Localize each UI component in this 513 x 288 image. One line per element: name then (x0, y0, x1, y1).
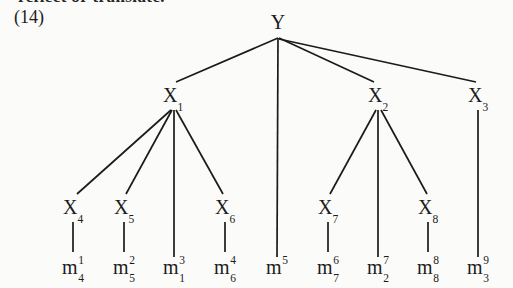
node-subscript: 3 (483, 101, 489, 113)
tree-edge-X2-X7 (330, 110, 376, 194)
level1-node-X1: X1 (163, 85, 183, 105)
node-base-label: m (467, 256, 483, 278)
node-subscript: 8 (433, 273, 439, 285)
tree-edge-X2-X8 (381, 110, 427, 194)
leaf-node-m1: m14 (62, 257, 84, 281)
tree-edge-Y-X2 (279, 38, 374, 82)
leaf-index-stack: 25 (129, 258, 135, 281)
node-subscript: 4 (78, 213, 84, 225)
level1-node-X2: X2 (368, 85, 388, 105)
node-subscript: 4 (78, 273, 84, 285)
node-base-label: Y (271, 11, 285, 33)
node-superscript: 9 (483, 254, 489, 266)
node-subscript: 1 (178, 101, 184, 113)
node-base-label: m (266, 256, 282, 278)
node-base-label: m (163, 256, 179, 278)
leaf-index-stack: 46 (230, 258, 236, 281)
tree-edge-Y-m5 (277, 38, 278, 257)
node-superscript: 4 (230, 254, 236, 266)
tree-edge-X1-X6 (176, 110, 223, 194)
node-subscript: 5 (129, 213, 135, 225)
node-superscript: 7 (383, 254, 389, 266)
node-base-label: m (62, 256, 78, 278)
tree-edge-X1-X5 (126, 110, 172, 194)
level2-node-X8: X8 (418, 197, 438, 217)
leaf-node-m9: m93 (467, 257, 489, 281)
leaf-node-m4: m46 (214, 257, 236, 281)
node-subscript: 5 (129, 273, 135, 285)
node-base-label: X (468, 84, 482, 106)
tree-edge-Y-X3 (279, 39, 476, 82)
leaf-index-stack: 93 (483, 258, 489, 281)
node-subscript: 1 (179, 273, 185, 285)
tree-edge-X1-X4 (77, 110, 171, 194)
tree-edges (0, 0, 513, 288)
leaf-node-m8: m88 (417, 257, 439, 281)
node-subscript: 3 (483, 273, 489, 285)
node-superscript: 6 (333, 254, 339, 266)
leaf-index-stack: 88 (433, 258, 439, 281)
node-subscript: 6 (230, 273, 236, 285)
node-subscript: 2 (383, 273, 389, 285)
node-superscript: 5 (282, 254, 288, 266)
leaf-node-m3: m31 (163, 257, 185, 281)
leaf-node-m5: m5 (266, 257, 288, 281)
node-base-label: X (368, 84, 382, 106)
leaf-index-stack: 31 (179, 258, 185, 281)
leaf-node-m6: m67 (317, 257, 339, 281)
leaf-index-stack: 72 (383, 258, 389, 281)
level2-node-X7: X7 (318, 197, 338, 217)
node-superscript: 2 (129, 254, 135, 266)
node-superscript: 3 (179, 254, 185, 266)
leaf-index-stack: 5 (282, 258, 288, 281)
node-base-label: m (317, 256, 333, 278)
node-superscript: 1 (78, 254, 84, 266)
node-superscript: 8 (433, 254, 439, 266)
node-base-label: X (418, 196, 432, 218)
node-base-label: X (318, 196, 332, 218)
leaf-node-m2: m25 (113, 257, 135, 281)
node-base-label: X (114, 196, 128, 218)
level2-node-X5: X5 (114, 197, 134, 217)
node-base-label: m (214, 256, 230, 278)
node-subscript: 7 (333, 213, 339, 225)
node-base-label: m (417, 256, 433, 278)
node-base-label: X (163, 84, 177, 106)
node-base-label: X (63, 196, 77, 218)
leaf-index-stack: 14 (78, 258, 84, 281)
level2-node-X4: X4 (63, 197, 83, 217)
level2-node-X6: X6 (215, 197, 235, 217)
leaf-node-m7: m72 (367, 257, 389, 281)
tree-edge-Y-X1 (176, 38, 278, 82)
node-base-label: m (367, 256, 383, 278)
figure-canvas: reflect or translate. (14) YX1X2X3X4X5X6… (0, 0, 513, 288)
node-subscript: 6 (230, 213, 236, 225)
root-node-Y: Y (271, 12, 285, 32)
level1-node-X3: X3 (468, 85, 488, 105)
node-subscript: 7 (333, 273, 339, 285)
node-base-label: X (215, 196, 229, 218)
node-subscript: 2 (383, 101, 389, 113)
leaf-index-stack: 67 (333, 258, 339, 281)
node-base-label: m (113, 256, 129, 278)
node-subscript: 8 (433, 213, 439, 225)
